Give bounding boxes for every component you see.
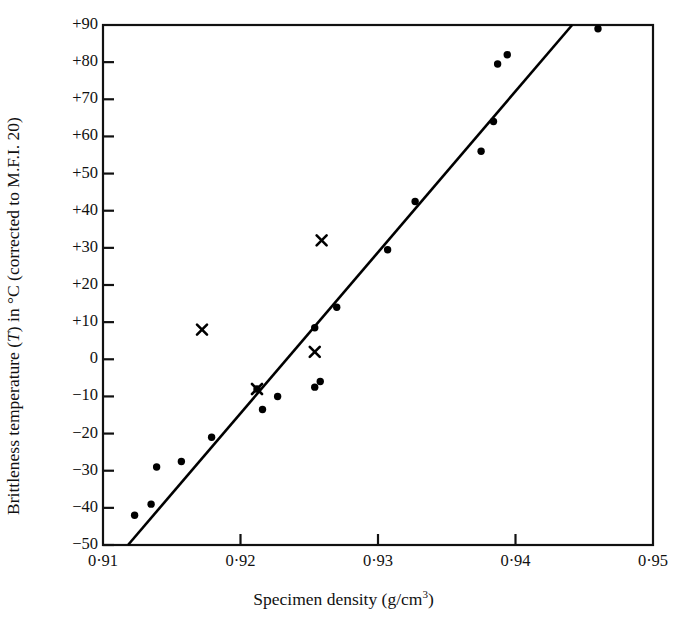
data-point-dot bbox=[333, 304, 340, 311]
data-point-dot bbox=[384, 246, 391, 253]
x-tick-label: 0·95 bbox=[618, 551, 687, 571]
data-point-dot bbox=[131, 512, 138, 519]
x-tick-label: 0·92 bbox=[206, 551, 276, 571]
data-point-dot bbox=[311, 324, 318, 331]
x-tick-label: 0·91 bbox=[68, 551, 138, 571]
data-point-dot bbox=[147, 500, 154, 507]
chart-figure: Brittleness temperature (T) in °C (corre… bbox=[0, 0, 687, 632]
x-axis-title-lead: Specimen density (g/cm bbox=[253, 589, 422, 609]
data-point-dot bbox=[208, 434, 215, 441]
data-point-cross bbox=[317, 235, 327, 245]
data-point-dot bbox=[490, 118, 497, 125]
x-tick-label: 0·93 bbox=[343, 551, 413, 571]
x-tick-label: 0·94 bbox=[481, 551, 551, 571]
data-point-dot bbox=[274, 393, 281, 400]
data-point-dot bbox=[311, 383, 318, 390]
data-point-dot bbox=[494, 60, 501, 67]
x-axis-title: Specimen density (g/cm3) bbox=[0, 588, 687, 610]
regression-line bbox=[128, 25, 572, 545]
plot-frame bbox=[103, 25, 653, 545]
plot-area bbox=[0, 0, 687, 632]
x-axis-title-tail: ) bbox=[428, 589, 434, 609]
data-point-dot bbox=[259, 406, 266, 413]
data-point-dot bbox=[504, 51, 511, 58]
data-point-dot bbox=[153, 463, 160, 470]
data-point-dot bbox=[411, 198, 418, 205]
data-point-dot bbox=[594, 25, 601, 32]
data-point-cross bbox=[197, 325, 207, 335]
data-point-dot bbox=[178, 458, 185, 465]
data-point-dot bbox=[477, 148, 484, 155]
data-point-cross bbox=[310, 347, 320, 357]
data-point-dot bbox=[317, 378, 324, 385]
